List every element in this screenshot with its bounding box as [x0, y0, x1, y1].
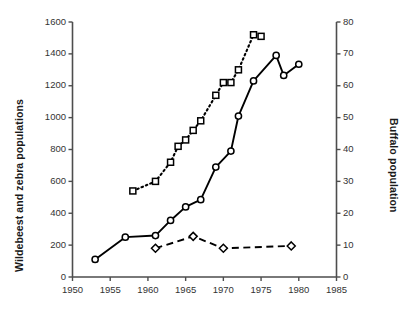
y-tick-label-left-1000: 1000 — [20, 111, 66, 122]
data-point-buffalo-1958 — [130, 188, 136, 194]
y-tick-label-left-1400: 1400 — [20, 47, 66, 58]
data-point-buffalo-1974 — [251, 32, 257, 38]
data-point-wildebeest-1969 — [213, 164, 219, 170]
series-zebra — [151, 232, 295, 252]
data-point-wildebeest-1957 — [122, 234, 128, 240]
data-point-buffalo-1970 — [220, 80, 226, 86]
y-tick-label-left-200: 200 — [20, 239, 66, 250]
y-tick-label-left-0: 0 — [20, 271, 66, 282]
data-point-zebra-1970 — [219, 244, 227, 252]
population-trends-chart: Wildebeest and zebra populations Buffalo… — [0, 0, 413, 312]
data-point-wildebeest-1963 — [167, 217, 173, 223]
y-tick-label-right-70: 70 — [343, 47, 383, 58]
data-point-buffalo-1967 — [198, 118, 204, 124]
series-line-buffalo — [133, 35, 261, 191]
series-wildebeest — [92, 52, 302, 262]
y-tick-label-right-30: 30 — [343, 175, 383, 186]
y-tick-label-left-1200: 1200 — [20, 79, 66, 90]
data-point-wildebeest-1980 — [296, 61, 302, 67]
data-point-wildebeest-1978 — [281, 72, 287, 78]
y-tick-label-right-50: 50 — [343, 111, 383, 122]
x-tick-label-1985: 1985 — [315, 284, 359, 295]
data-point-zebra-1961 — [151, 244, 159, 252]
data-point-wildebeest-1972 — [235, 113, 241, 119]
y-tick-label-left-1600: 1600 — [20, 16, 66, 27]
y-tick-label-right-20: 20 — [343, 207, 383, 218]
y-tick-label-left-600: 600 — [20, 175, 66, 186]
data-point-wildebeest-1965 — [183, 204, 189, 210]
data-point-wildebeest-1974 — [250, 78, 256, 84]
data-point-buffalo-1971 — [228, 80, 234, 86]
y-tick-label-right-60: 60 — [343, 79, 383, 90]
data-point-wildebeest-1967 — [198, 197, 204, 203]
data-point-buffalo-1963 — [168, 159, 174, 165]
series-buffalo — [130, 32, 264, 194]
y-tick-label-left-800: 800 — [20, 143, 66, 154]
y-tick-label-right-10: 10 — [343, 239, 383, 250]
data-point-buffalo-1966 — [190, 127, 196, 133]
y-tick-label-right-80: 80 — [343, 16, 383, 27]
data-point-buffalo-1961 — [152, 178, 158, 184]
data-point-buffalo-1964 — [175, 143, 181, 149]
data-point-wildebeest-1961 — [152, 232, 158, 238]
data-point-buffalo-1972 — [235, 67, 241, 73]
series-line-wildebeest — [95, 55, 299, 259]
data-point-zebra-1966 — [189, 232, 197, 240]
y-tick-label-right-0: 0 — [343, 271, 383, 282]
data-point-wildebeest-1971 — [228, 148, 234, 154]
data-point-buffalo-1965 — [183, 137, 189, 143]
data-point-wildebeest-1953 — [92, 256, 98, 262]
data-point-buffalo-1969 — [213, 92, 219, 98]
y-tick-label-right-40: 40 — [343, 143, 383, 154]
data-point-zebra-1979 — [287, 242, 295, 250]
data-point-wildebeest-1977 — [273, 52, 279, 58]
data-point-buffalo-1975 — [258, 33, 264, 39]
y-tick-label-left-400: 400 — [20, 207, 66, 218]
